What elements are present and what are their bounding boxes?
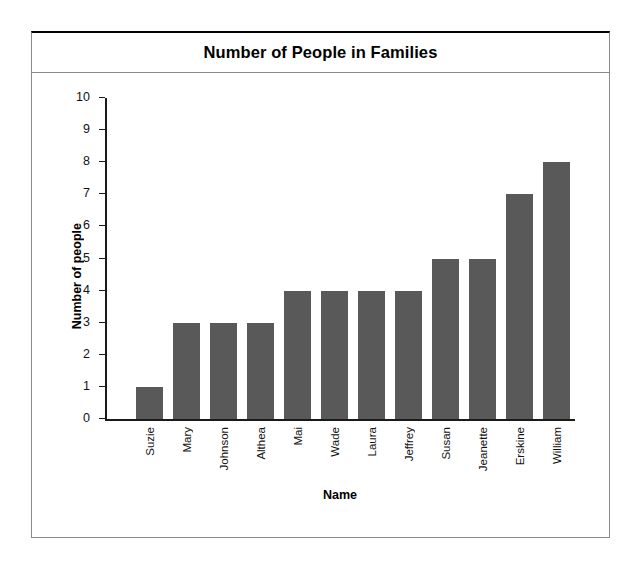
y-axis-tick: 10: [99, 97, 105, 98]
plot-area: 012345678910 SuzieMaryJohnsonAltheaMaiWa…: [105, 98, 575, 419]
x-axis-tick-label: Mary: [181, 427, 193, 453]
y-axis-tick-label: 8: [83, 154, 90, 168]
bar: Mary: [173, 323, 200, 419]
x-axis-tick-label: William: [551, 427, 563, 464]
y-axis-tick: 5: [99, 258, 105, 259]
y-axis-tick-label: 7: [83, 186, 90, 200]
y-axis-title: Number of people: [70, 223, 84, 329]
chart-frame: Number of People in Families Number of p…: [31, 31, 610, 538]
y-axis-tick-label: 4: [83, 283, 90, 297]
bar: Laura: [358, 291, 385, 419]
bar: Jeffrey: [395, 291, 422, 419]
y-axis-tick-label: 10: [76, 90, 90, 104]
page-title: Number of People in Families: [204, 43, 438, 62]
y-axis-tick-label: 0: [83, 411, 90, 425]
x-axis-tick-label: Laura: [366, 427, 378, 456]
x-axis-tick-label: Mai: [292, 427, 304, 446]
x-axis-tick-label: Suzie: [144, 427, 156, 456]
y-axis-tick: 0: [99, 418, 105, 419]
x-axis-tick-label: Jeffrey: [403, 427, 415, 461]
x-axis-tick-label: Johnson: [218, 427, 230, 470]
x-axis-tick-label: Jeanette: [477, 427, 489, 471]
bar: Susan: [432, 259, 459, 420]
y-axis-tick-label: 3: [83, 315, 90, 329]
y-axis-tick-label: 1: [83, 379, 90, 393]
y-axis-tick: 4: [99, 290, 105, 291]
bar: Erskine: [506, 194, 533, 419]
chart-title-band: Number of People in Families: [32, 33, 609, 73]
x-axis-tick-label: Susan: [440, 427, 452, 460]
bar: Johnson: [210, 323, 237, 419]
y-axis-tick-label: 2: [83, 347, 90, 361]
bar: Althea: [247, 323, 274, 419]
bar: Jeanette: [469, 259, 496, 420]
y-axis-tick: 6: [99, 225, 105, 226]
y-axis-tick: 8: [99, 161, 105, 162]
bar: William: [543, 162, 570, 419]
y-axis-tick: 9: [99, 129, 105, 130]
y-axis-line: [105, 98, 107, 419]
y-axis-tick: 7: [99, 193, 105, 194]
x-axis-tick-label: Althea: [255, 427, 267, 460]
y-axis-tick: 3: [99, 322, 105, 323]
y-axis-tick: 1: [99, 386, 105, 387]
bar: Suzie: [136, 387, 163, 419]
x-axis-tick-label: Wade: [329, 427, 341, 457]
bar: Mai: [284, 291, 311, 419]
x-axis-tick-label: Erskine: [514, 427, 526, 465]
y-axis-tick: 2: [99, 354, 105, 355]
y-axis-tick-label: 9: [83, 122, 90, 136]
bar: Wade: [321, 291, 348, 419]
x-axis-line: [105, 419, 575, 421]
y-axis-tick-label: 5: [83, 251, 90, 265]
y-axis-tick-label: 6: [83, 218, 90, 232]
x-axis-title: Name: [105, 488, 575, 502]
